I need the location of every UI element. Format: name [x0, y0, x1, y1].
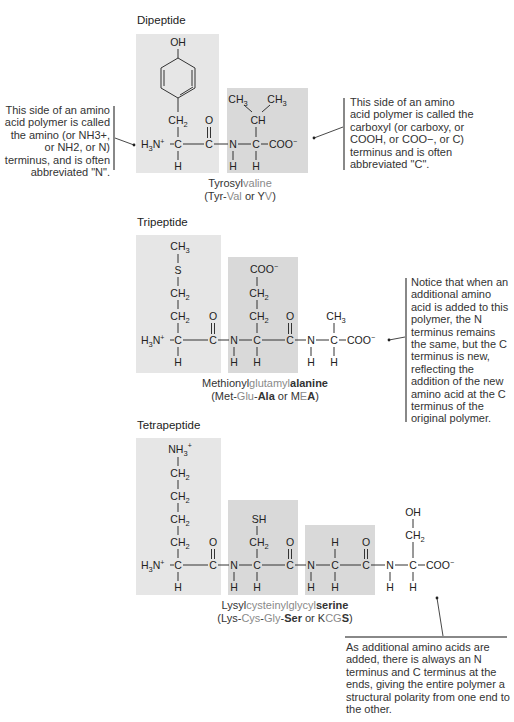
polarity-callout: As additional amino acids are added, the… — [346, 641, 511, 715]
svg-text:CH3: CH3 — [326, 310, 345, 325]
name-segment: Val — [227, 190, 242, 202]
svg-text:COO−: COO− — [250, 263, 278, 275]
tetrapeptide-name: Lysylcysteinylglycylserine (Lys-Cys-Gly-… — [200, 599, 370, 625]
tripeptide-abbreviation: (Met-Glu-Ala or MEA) — [175, 390, 355, 403]
svg-text:C: C — [253, 559, 261, 571]
svg-text:C: C — [174, 334, 182, 346]
new-c-terminus-leader-line — [389, 337, 405, 340]
name-segment: glycyl — [288, 599, 316, 611]
svg-text:H: H — [253, 356, 261, 368]
svg-text:COO−: COO− — [426, 559, 454, 571]
dipeptide-full-name: Tyrosylvaline — [155, 177, 325, 190]
c-terminus-pointer-dot — [313, 137, 316, 140]
name-segment: Ser — [284, 612, 302, 624]
svg-text:N: N — [307, 559, 315, 571]
name-segment: alanine — [290, 377, 328, 389]
svg-text:OH: OH — [405, 506, 421, 518]
dipeptide-abbreviation: (Tyr-Val or YV) — [155, 190, 325, 203]
svg-text:H: H — [386, 581, 394, 593]
svg-text:S: S — [174, 264, 181, 276]
name-segment: CG — [325, 612, 342, 624]
svg-text:C: C — [286, 559, 294, 571]
svg-text:O: O — [362, 536, 370, 548]
tetrapeptide-title: Tetrapeptide — [137, 419, 200, 431]
name-segment: Ala — [258, 390, 275, 402]
new-c-terminus-callout-text: Notice that when an additional amino aci… — [411, 276, 508, 424]
new-c-terminus-callout: Notice that when an additional amino aci… — [411, 276, 511, 425]
svg-text:H: H — [252, 160, 260, 172]
name-segment: ) — [272, 190, 276, 202]
svg-text:O: O — [209, 536, 217, 548]
tripeptide-title: Tripeptide — [137, 216, 188, 228]
name-segment: (Met- — [211, 390, 237, 402]
svg-text:O: O — [286, 536, 294, 548]
tetrapeptide-full-name: Lysylcysteinylglycylserine — [200, 599, 370, 612]
svg-text:C: C — [209, 559, 217, 571]
svg-text:C: C — [174, 559, 182, 571]
svg-text:C: C — [409, 559, 417, 571]
svg-text:H: H — [331, 536, 339, 548]
name-segment: Lysyl — [222, 599, 247, 611]
dipeptide-name: Tyrosylvaline (Tyr-Val or YV) — [155, 177, 325, 203]
svg-text:H: H — [330, 356, 338, 368]
svg-text:N: N — [386, 559, 394, 571]
svg-text:N: N — [307, 334, 315, 346]
n-terminus-pointer-dot — [133, 144, 136, 147]
svg-text:H: H — [307, 581, 315, 593]
svg-text:H: H — [409, 581, 417, 593]
svg-text:CH2: CH2 — [405, 529, 424, 544]
c-terminus-leader-line — [314, 127, 343, 138]
svg-text:O: O — [286, 310, 294, 322]
svg-text:O: O — [205, 114, 213, 126]
new-c-terminus-pointer-dot — [388, 339, 391, 342]
svg-text:SH: SH — [252, 513, 267, 525]
svg-text:H: H — [230, 581, 238, 593]
name-segment: S — [342, 612, 349, 624]
name-segment: (Tyr- — [204, 190, 227, 202]
polarity-pointer-dot — [436, 597, 439, 600]
svg-text:COO−: COO− — [347, 334, 375, 346]
svg-text:C: C — [253, 334, 261, 346]
svg-text:H: H — [174, 356, 182, 368]
tripeptide-name: Methionylglutamylalanine (Met-Glu-Ala or… — [175, 377, 355, 403]
name-segment: Cys — [241, 612, 260, 624]
svg-text:H: H — [331, 581, 339, 593]
svg-text:H: H — [253, 581, 261, 593]
name-segment: or Y — [242, 190, 265, 202]
name-segment: or M — [275, 390, 300, 402]
svg-text:C: C — [286, 334, 294, 346]
name-segment: serine — [316, 599, 348, 611]
c-terminus-callout: This side of an amino acid polymer is ca… — [350, 96, 475, 170]
name-segment: Glu — [237, 390, 254, 402]
c-terminus-callout-text: This side of an amino acid polymer is ca… — [350, 96, 474, 170]
svg-text:C: C — [252, 138, 260, 150]
svg-text:C: C — [209, 334, 217, 346]
name-segment: (Lys- — [217, 612, 241, 624]
svg-text:C: C — [362, 559, 370, 571]
svg-text:CH: CH — [250, 114, 265, 126]
svg-text:N: N — [230, 334, 238, 346]
name-segment: A — [307, 390, 315, 402]
svg-text:H: H — [229, 160, 237, 172]
svg-text:C: C — [205, 138, 213, 150]
svg-text:N: N — [230, 559, 238, 571]
svg-text:H: H — [307, 356, 315, 368]
name-segment: Gly — [264, 612, 281, 624]
name-segment: cysteinyl — [246, 599, 288, 611]
svg-text:OH: OH — [170, 36, 186, 48]
name-segment: ) — [349, 612, 353, 624]
polarity-leader-line — [437, 598, 443, 636]
svg-text:N: N — [229, 138, 237, 150]
svg-text:H: H — [230, 356, 238, 368]
svg-text:H: H — [174, 160, 182, 172]
name-segment: Tyrosyl — [208, 177, 243, 189]
svg-text:COO−: COO− — [269, 138, 297, 150]
name-segment: Methionyl — [202, 377, 249, 389]
n-terminus-callout: This side of an amino acid polymer is ca… — [0, 104, 110, 178]
name-segment: glutamyl — [249, 377, 290, 389]
svg-text:C: C — [174, 138, 182, 150]
polarity-callout-text: As additional amino acids are added, the… — [346, 641, 510, 715]
svg-text:O: O — [209, 310, 217, 322]
name-segment: valine — [243, 177, 272, 189]
tripeptide-full-name: Methionylglutamylalanine — [175, 377, 355, 390]
